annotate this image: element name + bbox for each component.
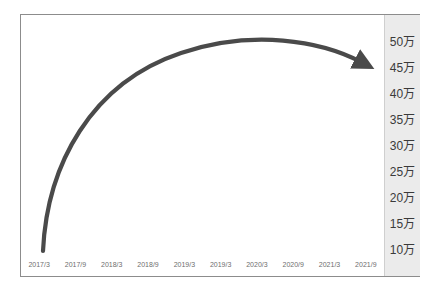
y-tick-label: 35万 — [385, 107, 420, 133]
x-tick-label: 2020/3 — [239, 261, 275, 268]
y-tick-label: 25万 — [385, 159, 420, 185]
y-axis-tick-labels: 50万 45万 40万 35万 30万 25万 20万 15万 10万 — [384, 15, 420, 276]
x-tick-label: 2021/9 — [348, 261, 384, 268]
y-tick-label: 40万 — [385, 81, 420, 107]
x-tick-label: 2021/3 — [311, 261, 347, 268]
chart-figure: 2017/3 2017/9 2018/3 2018/9 2019/3 2019/… — [0, 0, 442, 294]
x-tick-label: 2018/3 — [94, 261, 130, 268]
y-tick-label: 30万 — [385, 133, 420, 159]
x-axis-tick-labels: 2017/3 2017/9 2018/3 2018/9 2019/3 2019/… — [21, 254, 384, 274]
x-tick-label: 2018/9 — [130, 261, 166, 268]
x-tick-label: 2019/3 — [166, 261, 202, 268]
y-tick-label: 10万 — [385, 237, 420, 263]
x-tick-label: 2020/9 — [275, 261, 311, 268]
trend-arrow — [21, 15, 419, 276]
y-tick-label: 45万 — [385, 55, 420, 81]
x-tick-label: 2019/3 — [202, 261, 238, 268]
x-tick-label: 2017/3 — [21, 261, 57, 268]
y-tick-label: 20万 — [385, 185, 420, 211]
y-tick-label: 50万 — [385, 29, 420, 55]
x-tick-label: 2017/9 — [57, 261, 93, 268]
y-tick-label: 15万 — [385, 211, 420, 237]
chart-plot-area: 2017/3 2017/9 2018/3 2018/9 2019/3 2019/… — [20, 14, 420, 277]
